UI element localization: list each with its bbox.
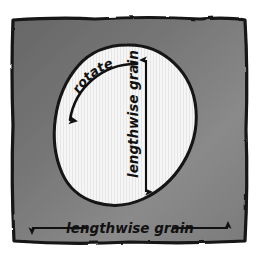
- artboard: lengthwise grain rotate lengthwise grain: [0, 0, 260, 262]
- diagram-svg: lengthwise grain rotate lengthwise grain: [0, 0, 260, 262]
- figure-canvas: lengthwise grain rotate lengthwise grain: [0, 0, 260, 262]
- horizontal-grain-label: lengthwise grain: [66, 220, 194, 236]
- vertical-grain-label: lengthwise grain: [125, 50, 141, 178]
